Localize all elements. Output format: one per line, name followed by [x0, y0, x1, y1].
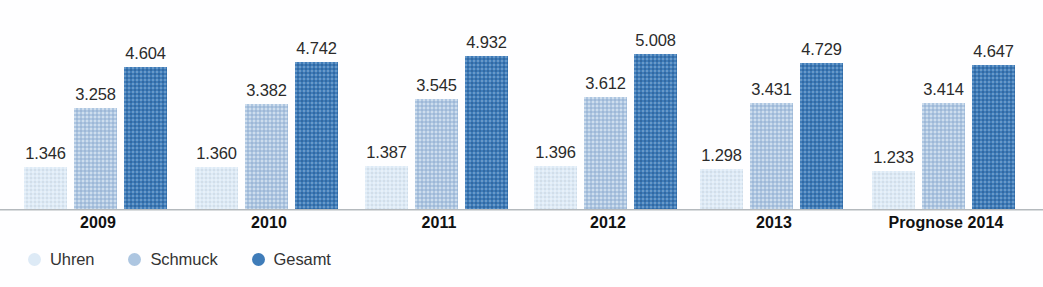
legend-item-gesamt[interactable]: Gesamt	[252, 250, 331, 269]
bar-uhren-2012[interactable]: 1.396	[534, 166, 577, 209]
bar-value-label: 3.545	[416, 76, 456, 95]
bar-gesamt-2009[interactable]: 4.604	[124, 67, 167, 209]
bar-uhren-2009[interactable]: 1.346	[24, 167, 67, 209]
bar-group: 1.2983.4314.7292013	[700, 0, 848, 210]
bar-value-label: 3.414	[923, 80, 963, 99]
bar-rect: 4.932	[465, 56, 508, 209]
bar-rect: 4.729	[800, 63, 843, 209]
bar-value-label: 3.431	[751, 80, 791, 99]
circle-marker-gesamt-icon	[252, 253, 265, 266]
bar-uhren-prognose-2014[interactable]: 1.233	[872, 171, 915, 209]
legend-label: Gesamt	[274, 250, 331, 269]
category-label-2013: 2013	[700, 214, 848, 232]
bar-rect: 3.414	[922, 103, 965, 209]
bar-value-label: 4.647	[973, 42, 1013, 61]
bar-value-label: 1.346	[25, 144, 65, 163]
bar-value-label: 4.604	[125, 44, 165, 63]
bar-rect: 3.545	[415, 99, 458, 209]
bar-value-label: 1.396	[535, 143, 575, 162]
bar-rect: 3.612	[584, 97, 627, 209]
bar-rect: 3.258	[74, 108, 117, 209]
bar-rect: 1.387	[365, 166, 408, 209]
bar-group: 1.3873.5454.9322011	[365, 0, 513, 210]
category-label-2009: 2009	[24, 214, 172, 232]
bar-rect: 1.233	[872, 171, 915, 209]
bar-schmuck-prognose-2014[interactable]: 3.414	[922, 103, 965, 209]
bar-rect: 1.298	[700, 169, 743, 209]
bar-value-label: 4.729	[801, 40, 841, 59]
bar-value-label: 1.387	[366, 143, 406, 162]
bar-schmuck-2009[interactable]: 3.258	[74, 108, 117, 209]
bar-group: 1.3603.3824.7422010	[195, 0, 343, 210]
bar-value-label: 5.008	[635, 31, 675, 50]
bar-rect: 4.647	[972, 65, 1015, 209]
bar-rect: 5.008	[634, 54, 677, 209]
circle-marker-schmuck-icon	[128, 253, 141, 266]
bar-schmuck-2013[interactable]: 3.431	[750, 103, 793, 209]
bar-value-label: 3.612	[585, 74, 625, 93]
bar-value-label: 4.742	[296, 39, 336, 58]
bar-rect: 1.346	[24, 167, 67, 209]
bar-value-label: 3.258	[75, 85, 115, 104]
plot-area: 1.3463.2584.60420091.3603.3824.74220101.…	[0, 0, 1043, 211]
bar-rect: 3.382	[245, 104, 288, 209]
bar-gesamt-prognose-2014[interactable]: 4.647	[972, 65, 1015, 209]
bar-rect: 4.742	[295, 62, 338, 209]
bar-rect: 1.360	[195, 167, 238, 209]
bar-uhren-2011[interactable]: 1.387	[365, 166, 408, 209]
bar-group: 1.2333.4144.647Prognose 2014	[872, 0, 1020, 210]
category-label-prognose-2014: Prognose 2014	[872, 214, 1020, 232]
grouped-bar-chart: 1.3463.2584.60420091.3603.3824.74220101.…	[0, 0, 1043, 287]
bar-schmuck-2010[interactable]: 3.382	[245, 104, 288, 209]
bar-gesamt-2010[interactable]: 4.742	[295, 62, 338, 209]
bar-rect: 1.396	[534, 166, 577, 209]
category-label-2010: 2010	[195, 214, 343, 232]
legend-item-schmuck[interactable]: Schmuck	[128, 250, 217, 269]
bar-gesamt-2011[interactable]: 4.932	[465, 56, 508, 209]
bar-value-label: 1.298	[701, 146, 741, 165]
bar-schmuck-2011[interactable]: 3.545	[415, 99, 458, 209]
bar-schmuck-2012[interactable]: 3.612	[584, 97, 627, 209]
bar-gesamt-2013[interactable]: 4.729	[800, 63, 843, 209]
legend-item-uhren[interactable]: Uhren	[28, 250, 94, 269]
bar-value-label: 3.382	[246, 81, 286, 100]
bar-group: 1.3463.2584.6042009	[24, 0, 172, 210]
bar-value-label: 1.360	[196, 144, 236, 163]
bar-group: 1.3963.6125.0082012	[534, 0, 682, 210]
bar-rect: 4.604	[124, 67, 167, 209]
circle-marker-uhren-icon	[28, 253, 41, 266]
bar-value-label: 1.233	[873, 148, 913, 167]
bar-uhren-2013[interactable]: 1.298	[700, 169, 743, 209]
bar-rect: 3.431	[750, 103, 793, 209]
category-label-2011: 2011	[365, 214, 513, 232]
legend-label: Uhren	[50, 250, 94, 269]
bar-value-label: 4.932	[466, 33, 506, 52]
bar-uhren-2010[interactable]: 1.360	[195, 167, 238, 209]
bar-gesamt-2012[interactable]: 5.008	[634, 54, 677, 209]
category-label-2012: 2012	[534, 214, 682, 232]
legend-label: Schmuck	[150, 250, 217, 269]
chart-legend: UhrenSchmuckGesamt	[28, 250, 365, 269]
